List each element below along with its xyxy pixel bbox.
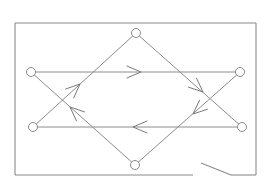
circuit-diagram	[0, 0, 274, 188]
node-right-upper	[236, 68, 245, 77]
node-right-lower	[238, 123, 247, 132]
node-top	[132, 29, 141, 38]
edge-top-to-right-lower	[136, 33, 242, 127]
node-left-upper	[27, 68, 36, 77]
edge-bottom-to-left-upper	[31, 72, 135, 165]
node-left-lower	[29, 123, 38, 132]
nodes	[27, 29, 247, 170]
edge-right-upper-to-bottom	[135, 72, 240, 165]
edge-left-lower-to-top	[33, 33, 136, 127]
frame-wire	[15, 23, 256, 175]
switch-blade	[201, 163, 231, 175]
direction-arrows	[66, 66, 208, 133]
edges	[31, 33, 242, 165]
node-bottom	[131, 161, 140, 170]
